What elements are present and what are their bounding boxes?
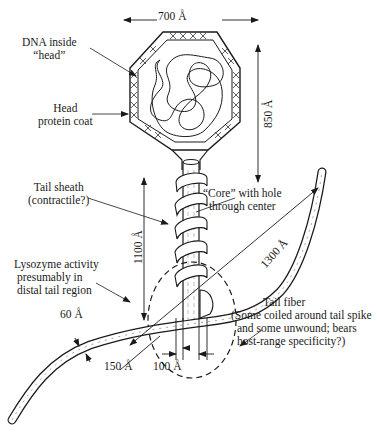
head-coat-label: Head protein coat: [38, 102, 93, 128]
lysozyme-line2: presumably in: [14, 271, 99, 284]
tail-fiber-label: Tail fiber (Some coiled around tail spik…: [237, 296, 372, 348]
tail-sheath-line1: Tail sheath: [28, 181, 89, 194]
head-coat-line1: Head: [38, 102, 93, 115]
sheath-width-dim: 150 Å: [104, 360, 132, 373]
core-width-dim: 100 Å: [153, 360, 181, 373]
tail-fiber-line3: and some unwound; bears: [237, 322, 372, 335]
tail-sheath-label: Tail sheath (contractile?): [28, 181, 89, 207]
core-line1: “Core” with hole: [203, 187, 282, 200]
lysozyme-label: Lysozyme activity presumably in distal t…: [14, 258, 99, 297]
head-coat-line2: protein coat: [38, 115, 93, 128]
tail-sheath-line2: (contractile?): [28, 194, 89, 207]
head-width-dim: 700 Å: [158, 10, 186, 23]
tail-length-dim: 1100 Å: [132, 230, 145, 264]
dna-label: DNA inside “head”: [22, 36, 77, 62]
core-line2: through center: [203, 200, 282, 213]
tail-fiber-line4: host-range specificity?): [237, 335, 372, 348]
tail-fiber-line2: (Some coiled around tail spike: [231, 309, 372, 322]
lysozyme-line1: Lysozyme activity: [14, 258, 99, 271]
fiber-width-dim: 60 Å: [60, 308, 83, 321]
dna-label-line1: DNA inside: [22, 36, 77, 49]
lysozyme-line3: distal tail region: [14, 284, 99, 297]
dna-strand: [151, 55, 224, 137]
dna-label-line2: “head”: [22, 49, 77, 62]
phage-head: [130, 32, 240, 170]
phage-diagram: [0, 0, 377, 433]
core-label: “Core” with hole through center: [203, 187, 282, 213]
tail-fiber-line1: Tail fiber: [237, 296, 372, 309]
head-height-dim: 850 Å: [262, 100, 275, 128]
